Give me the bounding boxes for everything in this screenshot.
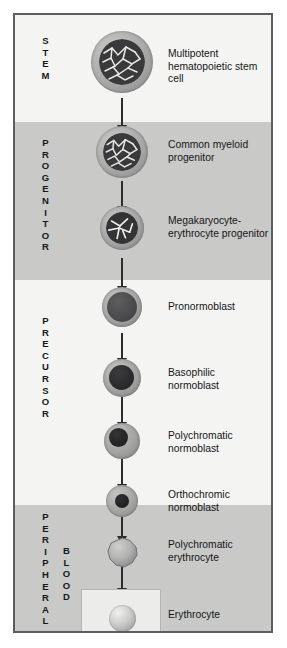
stage-label-pronormoblast: Pronormoblast	[168, 301, 235, 314]
erythrocyte-inset-box	[81, 589, 161, 633]
nucleus-mottled	[103, 133, 141, 171]
arrow-mep-to-pro	[121, 258, 123, 287]
arrow-cmp-to-mep	[121, 181, 123, 207]
cell-pronormoblast	[102, 287, 142, 327]
arrow-poly-to-ortho	[121, 459, 123, 485]
diagram-frame: STEM PROGENITOR PRECURSOR PERIPHERAL BLO…	[13, 13, 273, 633]
stage-label-common-myeloid-progenitor: Common myeloid progenitor	[168, 139, 248, 164]
nucleus-large	[109, 365, 134, 390]
cell-basophilic-normoblast	[103, 359, 141, 397]
arrow-baso-to-poly	[121, 397, 123, 423]
phase-label-progenitor: PROGENITOR	[39, 137, 52, 253]
cell-polychromatic-normoblast	[104, 423, 140, 459]
phase-label-blood: BLOOD	[60, 545, 73, 603]
nucleus-large	[107, 292, 137, 322]
nucleus-medium	[109, 428, 128, 447]
cell-multipotent-hematopoietic-stem-cell	[91, 31, 153, 93]
stage-label-megakaryocyte-erythrocyte-progenitor: Megakaryocyte- erythrocyte progenitor	[168, 215, 268, 240]
erythropoiesis-diagram: STEM PROGENITOR PRECURSOR PERIPHERAL BLO…	[0, 0, 287, 648]
cell-common-myeloid-progenitor	[96, 126, 148, 178]
stage-label-polychromatic-erythrocyte: Polychromatic erythrocyte	[168, 539, 233, 564]
stage-label-multipotent-hematopoietic-stem-cell: Multipotent hematopoietic stem cell	[168, 48, 271, 86]
cytoplasm-biconcave	[109, 605, 136, 632]
cell-orthochromic-normoblast	[106, 485, 138, 517]
stage-label-erythrocyte: Erythrocyte	[168, 609, 220, 622]
nucleus-mottled	[106, 212, 138, 244]
phase-label-peripheral: PERIPHERAL	[39, 511, 52, 627]
arrow-ortho-to-polyery	[121, 514, 123, 537]
stage-label-orthochromic-normoblast: Orthochromic normoblast	[168, 489, 230, 514]
arrow-polyery-to-rbc	[121, 567, 123, 589]
stage-label-polychromatic-normoblast: Polychromatic normoblast	[168, 430, 233, 455]
cell-polychromatic-erythrocyte	[107, 537, 138, 568]
phase-label-precursor: PRECURSOR	[39, 315, 52, 419]
stage-label-basophilic-normoblast: Basophilic normoblast	[168, 367, 219, 392]
cell-megakaryocyte-erythrocyte-progenitor	[100, 206, 144, 250]
arrow-pro-to-baso	[121, 333, 123, 359]
band-precursor	[15, 280, 271, 505]
cell-erythrocyte	[109, 605, 136, 632]
nucleus-small	[115, 494, 129, 508]
arrow-stem-to-cmp	[121, 98, 123, 126]
phase-label-stem: STEM	[39, 35, 52, 81]
nucleus-mottled	[99, 39, 145, 85]
